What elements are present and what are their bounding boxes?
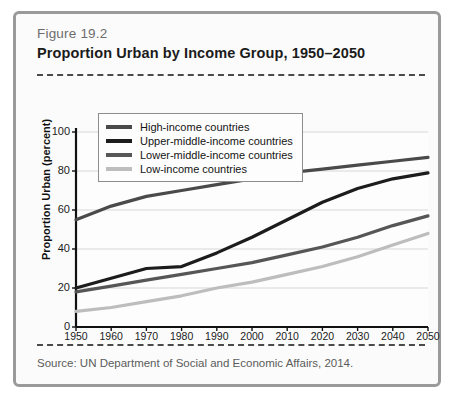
figure-card: Figure 19.2 Proportion Urban by Income G… (13, 11, 441, 387)
legend-swatch-icon (106, 125, 132, 129)
legend-label: Low-income countries (140, 163, 247, 175)
legend-swatch-icon (106, 139, 132, 143)
legend-label: Upper-middle-income countries (140, 135, 293, 147)
figure-number: Figure 19.2 (37, 26, 108, 41)
legend-item[interactable]: Low-income countries (106, 162, 293, 175)
chart-plot-area: Proportion Urban (percent) 100806040200 … (16, 80, 444, 342)
legend-item[interactable]: Upper-middle-income countries (106, 134, 293, 147)
divider-top (37, 74, 425, 76)
legend-swatch-icon (106, 153, 132, 157)
figure-title: Proportion Urban by Income Group, 1950–2… (37, 45, 365, 61)
legend-swatch-icon (106, 167, 132, 171)
legend-item[interactable]: High-income countries (106, 120, 293, 133)
legend-label: High-income countries (140, 121, 249, 133)
source-note: Source: UN Department of Social and Econ… (37, 357, 353, 369)
divider-bottom (37, 344, 425, 346)
legend-label: Lower-middle-income countries (140, 149, 293, 161)
chart-legend: High-income countriesUpper-middle-income… (98, 113, 303, 182)
legend-item[interactable]: Lower-middle-income countries (106, 148, 293, 161)
